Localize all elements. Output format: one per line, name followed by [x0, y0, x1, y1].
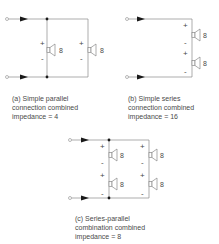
- caption-line: (a) Simple parallel: [12, 94, 78, 103]
- polarity-plus: +: [79, 39, 84, 48]
- polarity-minus: -: [80, 54, 83, 63]
- polarity-minus: -: [184, 38, 187, 47]
- polarity-minus: -: [101, 158, 104, 167]
- terminal-icon: [69, 197, 72, 200]
- arrow-icon: [20, 17, 28, 22]
- junction-dot: [46, 18, 49, 21]
- arrow-icon: [81, 138, 89, 143]
- caption-line: connection combined: [12, 103, 78, 112]
- speaker-icon: [109, 149, 117, 161]
- speaker-icon: [192, 57, 200, 69]
- terminal-icon: [6, 18, 9, 21]
- terminal-icon: [126, 18, 129, 21]
- arrow-icon: [137, 75, 145, 80]
- polarity-plus: +: [183, 49, 188, 58]
- polarity-minus: -: [41, 54, 44, 63]
- speaker-icon: [88, 44, 96, 56]
- speaker-icon: [192, 29, 200, 41]
- arrow-icon: [20, 75, 28, 80]
- junction-dot: [46, 76, 49, 79]
- diagram-a-parallel: [6, 17, 97, 80]
- polarity-plus: +: [40, 39, 45, 48]
- speaker-icon: [149, 178, 157, 190]
- impedance-label: 8: [100, 47, 104, 54]
- diagram-b-series: [126, 17, 201, 80]
- junction-dot: [108, 139, 111, 142]
- terminal-icon: [6, 76, 9, 79]
- polarity-minus: -: [101, 189, 104, 198]
- polarity-plus: +: [183, 21, 188, 30]
- polarity-plus: +: [140, 171, 145, 180]
- junction-dot: [108, 197, 111, 200]
- caption-line: impedance = 4: [12, 112, 78, 121]
- speaker-icon: [47, 44, 55, 56]
- terminal-icon: [126, 76, 129, 79]
- polarity-plus: +: [100, 171, 105, 180]
- speaker-icon: [109, 178, 117, 190]
- impedance-label: 8: [160, 152, 164, 159]
- impedance-label: 8: [120, 181, 124, 188]
- caption-line: connection combined: [128, 103, 194, 112]
- caption-line: (c) Series-parallel: [75, 214, 145, 223]
- caption-line: impedance = 16: [128, 112, 194, 121]
- caption-line: (b) Simple series: [128, 94, 194, 103]
- polarity-minus: -: [141, 189, 144, 198]
- polarity-minus: -: [141, 158, 144, 167]
- speaker-wiring-diagrams: + - 8 + - 8 + - 8 + - 8 + - 8 + - 8 + - …: [0, 0, 219, 244]
- impedance-label: 8: [203, 60, 207, 67]
- caption-line: combination combined: [75, 223, 145, 232]
- speaker-icon: [149, 149, 157, 161]
- caption-line: impedance = 8: [75, 232, 145, 241]
- polarity-plus: +: [100, 142, 105, 151]
- impedance-label: 8: [59, 47, 63, 54]
- arrow-icon: [81, 196, 89, 201]
- polarity-plus: +: [140, 142, 145, 151]
- terminal-icon: [69, 139, 72, 142]
- caption-b: (b) Simple series connection combined im…: [128, 94, 194, 121]
- arrow-icon: [137, 17, 145, 22]
- impedance-label: 8: [120, 152, 124, 159]
- polarity-minus: -: [184, 67, 187, 76]
- impedance-label: 8: [203, 32, 207, 39]
- caption-a: (a) Simple parallel connection combined …: [12, 94, 78, 121]
- caption-c: (c) Series-parallel combination combined…: [75, 214, 145, 241]
- impedance-label: 8: [160, 181, 164, 188]
